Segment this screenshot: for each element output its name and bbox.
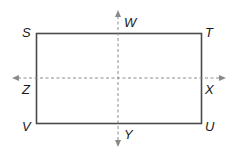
vertex-label-v: V — [22, 120, 31, 133]
arrow-up-icon — [115, 10, 121, 17]
arrow-down-icon — [115, 140, 121, 147]
vertex-label-s: S — [22, 26, 31, 39]
arrow-left-icon — [12, 75, 19, 81]
arrow-right-icon — [219, 75, 226, 81]
vertex-label-u: U — [205, 120, 214, 133]
point-label-x: X — [205, 83, 214, 96]
point-label-y: Y — [124, 128, 133, 141]
vertex-label-t: T — [205, 26, 213, 39]
point-label-z: Z — [22, 83, 30, 96]
diagram-canvas — [0, 0, 234, 156]
point-label-w: W — [124, 16, 136, 29]
